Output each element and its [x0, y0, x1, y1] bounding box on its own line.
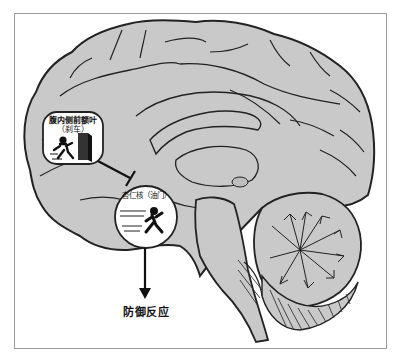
vmpfc-label: 腹内侧前额叶	[43, 115, 103, 125]
vmpfc-role-label: （刹车）	[43, 125, 103, 135]
output-arrow	[139, 248, 151, 299]
defense-response-label: 防御反应	[123, 303, 169, 319]
brain-sagittal-illustration	[0, 0, 399, 364]
amygdala-label: 杏仁核（油门）	[116, 191, 176, 201]
